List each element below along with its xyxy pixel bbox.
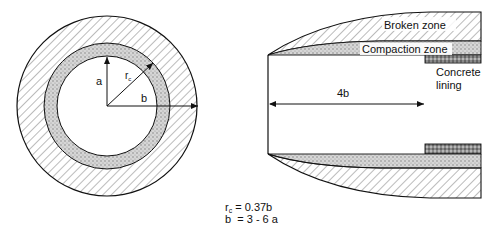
concrete-lining-label-line1: Concrete	[436, 66, 481, 78]
label-b: b	[141, 92, 147, 104]
tunnel-zones-diagram: a rc b 4b Broken zone Compaction zone Co…	[0, 0, 498, 235]
concrete-lining-top	[425, 55, 481, 63]
formulas: rc = 0.37b b = 3 - 6 a	[225, 201, 279, 225]
label-a: a	[96, 75, 103, 87]
concrete-lining-label-line2: lining	[436, 79, 462, 91]
concrete-lining-bottom	[425, 144, 481, 154]
cross-section: a rc b	[17, 16, 198, 196]
broken-zone-label: Broken zone	[384, 19, 446, 31]
formula-b: b = 3 - 6 a	[225, 213, 279, 225]
compaction-zone-label: Compaction zone	[362, 43, 448, 55]
dimension-4b-label: 4b	[337, 87, 349, 99]
longitudinal-section: 4b Broken zone Compaction zone Concrete …	[268, 12, 481, 198]
